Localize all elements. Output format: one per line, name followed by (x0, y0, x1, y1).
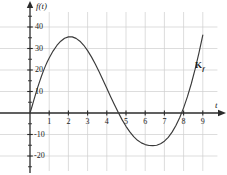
x-tick-label: 2 (66, 118, 70, 126)
x-tick-label: 7 (162, 118, 166, 126)
x-tick-label: 3 (86, 118, 90, 126)
x-tick-label: 6 (143, 118, 147, 126)
curve-label: Kf (195, 61, 204, 73)
y-tick-label: 10 (35, 88, 43, 96)
curve-label-subscript: f (202, 64, 204, 72)
y-tick-label: -10 (34, 131, 45, 139)
x-tick-label: 9 (201, 118, 205, 126)
x-tick-label: 1 (47, 118, 51, 126)
x-tick-label: 8 (182, 118, 186, 126)
x-tick-label: 4 (105, 118, 109, 126)
x-tick-label: 5 (124, 118, 128, 126)
y-tick-label: 40 (35, 23, 43, 31)
data-series (30, 35, 203, 146)
y-tick-label: 30 (35, 45, 43, 53)
y-tick-label: -20 (34, 152, 45, 160)
y-tick-label: 20 (35, 66, 43, 74)
x-axis-label: t (215, 101, 218, 110)
y-axis-label: f(t) (36, 2, 47, 11)
chart-figure: f(t) t Kf 123456789-20-1010203040 (0, 0, 227, 175)
